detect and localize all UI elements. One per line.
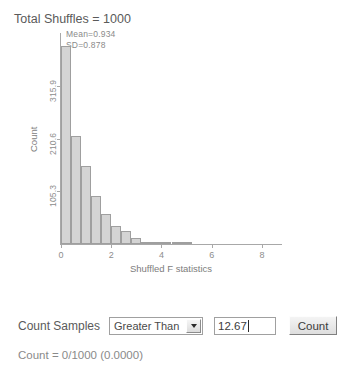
chevron-down-icon[interactable] [186,319,201,333]
count-samples-label: Count Samples [18,319,100,333]
count-button[interactable]: Count [289,316,337,335]
histogram-bar [111,226,121,244]
histogram-bar [182,242,192,244]
x-tick-label: 6 [209,250,214,260]
y-axis-label: Count [28,127,39,152]
x-axis-label: Shuffled F statistics [130,263,212,274]
x-tick-mark [262,245,263,248]
controls-row: Count Samples Greater Than 12.67 Count [18,316,337,335]
x-tick-label: 2 [109,250,114,260]
x-axis-line [60,244,282,245]
histogram-bar [131,238,141,244]
x-tick-label: 4 [159,250,164,260]
x-tick-mark [161,245,162,248]
threshold-input[interactable]: 12.67 [214,317,276,335]
histogram-bar [161,242,171,244]
y-tick-label: 105.3 [48,185,58,207]
arrow-down-glyph [191,324,197,328]
x-tick-mark [61,245,62,248]
histogram-bar [61,46,71,244]
x-tick-label: 0 [58,250,63,260]
histogram-bar [91,196,101,244]
count-result: Count = 0/1000 (0.0000) [18,349,143,361]
histogram-bar [172,242,182,244]
histogram-bar [121,231,131,244]
histogram-bar [71,136,81,244]
x-tick-mark [111,245,112,248]
y-tick-label: 315.9 [48,79,58,101]
histogram-plot: Mean=0.934 SD=0.878 Count 105.3210.6315.… [0,0,354,290]
histogram-bar [151,242,161,244]
y-tick-label: 210.6 [48,132,58,154]
threshold-input-value: 12.67 [218,320,247,332]
x-tick-mark [212,245,213,248]
comparison-select-value: Greater Than [114,320,179,332]
histogram-bars [61,33,282,244]
text-caret [248,320,249,332]
x-tick-label: 8 [259,250,264,260]
histogram-bar [101,214,111,244]
comparison-select[interactable]: Greater Than [109,317,203,335]
histogram-bar [141,242,151,245]
histogram-bar [81,166,91,244]
